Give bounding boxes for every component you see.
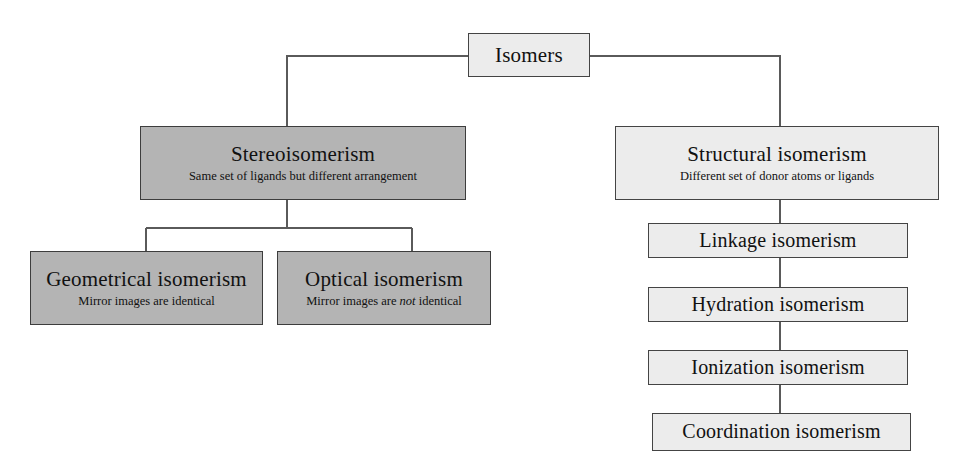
- node-structural-isomerism[interactable]: Structural isomerism Different set of do…: [615, 126, 939, 200]
- node-linkage-isomerism[interactable]: Linkage isomerism: [648, 223, 908, 258]
- node-geometrical-isomerism-title: Geometrical isomerism: [46, 268, 247, 291]
- node-stereoisomerism-title: Stereoisomerism: [231, 143, 375, 166]
- node-hydration-isomerism[interactable]: Hydration isomerism: [648, 287, 908, 322]
- node-isomers-title: Isomers: [495, 44, 563, 67]
- node-optical-isomerism[interactable]: Optical isomerism Mirror images are not …: [277, 251, 491, 325]
- node-optical-isomerism-subtitle-emphasis: not: [400, 294, 416, 308]
- node-coordination-isomerism[interactable]: Coordination isomerism: [652, 413, 911, 451]
- node-ionization-isomerism[interactable]: Ionization isomerism: [648, 350, 908, 385]
- node-optical-isomerism-title: Optical isomerism: [305, 268, 463, 291]
- edge-isomers-to-structural-isomerism: [590, 56, 780, 126]
- node-geometrical-isomerism[interactable]: Geometrical isomerism Mirror images are …: [30, 251, 263, 325]
- edge-isomers-to-stereoisomerism: [287, 56, 468, 126]
- node-structural-isomerism-title: Structural isomerism: [687, 143, 867, 166]
- node-coordination-isomerism-title: Coordination isomerism: [682, 421, 880, 443]
- node-stereoisomerism-subtitle: Same set of ligands but different arrang…: [189, 170, 417, 184]
- node-structural-isomerism-subtitle: Different set of donor atoms or ligands: [680, 170, 874, 184]
- node-linkage-isomerism-title: Linkage isomerism: [699, 230, 856, 252]
- node-ionization-isomerism-title: Ionization isomerism: [691, 357, 864, 379]
- node-optical-isomerism-subtitle: Mirror images are not identical: [306, 295, 462, 309]
- node-geometrical-isomerism-subtitle: Mirror images are identical: [78, 295, 214, 309]
- node-hydration-isomerism-title: Hydration isomerism: [691, 294, 864, 316]
- node-isomers[interactable]: Isomers: [468, 33, 590, 77]
- node-optical-isomerism-subtitle-prefix: Mirror images are: [306, 294, 399, 308]
- node-stereoisomerism[interactable]: Stereoisomerism Same set of ligands but …: [140, 126, 466, 200]
- node-optical-isomerism-subtitle-suffix: identical: [416, 294, 462, 308]
- isomers-classification-diagram: Isomers Stereoisomerism Same set of liga…: [0, 0, 965, 476]
